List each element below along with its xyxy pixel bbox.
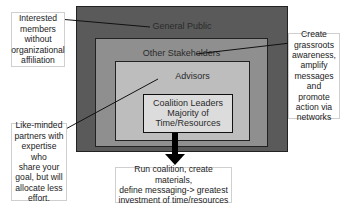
callout-line: awareness, [292,50,336,60]
layer-coalition-leaders: Coalition Leaders Majority of Time/Resou… [143,94,233,133]
other-stakeholders-label: Other Stakeholders [96,48,267,58]
callout-line: messages [294,71,333,81]
callout-line: organizational [11,45,65,55]
callout-line: investment of time/resources [119,195,229,205]
callout-advisors: Like-minded partners with expertise who … [11,123,67,201]
coalition-leaders-label-3: Time/Resources [144,118,232,128]
callout-line: grassroots [294,40,334,50]
callout-other-stakeholders: Create grassroots awareness, amplify mes… [288,33,340,119]
callout-line: networks [297,112,331,122]
callout-line: and promote [291,81,337,102]
callout-line: effort. [28,193,50,203]
callout-line: share your [19,162,60,172]
callout-line: Like-minded [16,120,63,130]
callout-line: expertise who [14,141,64,162]
coalition-leaders-label-1: Coalition Leaders [144,98,232,108]
callout-line: affiliation [21,55,55,65]
general-public-label: General Public [77,21,287,31]
callout-line: members [20,24,56,34]
advisors-label: Advisors [136,71,249,81]
callout-line: without [24,34,51,44]
callout-line: amplify [300,60,327,70]
callout-line: define messaging-> greatest [119,185,228,195]
callout-line: Run coalition, create materials, [118,164,229,185]
callout-line: Interested [19,13,57,23]
callout-line: goal, but will [15,172,62,182]
callout-line: allocate less [15,183,62,193]
callout-line: partners with [14,131,63,141]
callout-line: action via [296,102,332,112]
callout-general-public: Interested members without organizationa… [11,12,65,67]
callout-coalition-leaders: Run coalition, create materials, define … [115,167,232,203]
coalition-leaders-label-2: Majority of [144,108,232,118]
callout-line: Create [301,29,327,39]
